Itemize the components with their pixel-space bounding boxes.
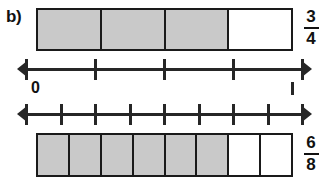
number-line-fourths	[26, 57, 303, 83]
bar-cell-2-shaded	[102, 10, 166, 49]
tick-mark-2	[94, 104, 97, 125]
fraction-label-three-fourths: 3 4	[300, 8, 322, 48]
bar-cell-1-shaded	[38, 10, 102, 49]
tick-mark-1	[60, 104, 63, 125]
tick-mark-3	[129, 104, 132, 125]
tick-mark-7	[267, 104, 270, 125]
worksheet-panel: b) 3 4 0 6 8	[0, 0, 322, 183]
bar-cell-2-shaded	[70, 135, 102, 175]
bar-cell-5-shaded	[166, 135, 198, 175]
number-line-eighths	[26, 102, 303, 128]
fraction-denominator: 8	[300, 156, 322, 174]
zero-label: 0	[31, 80, 40, 96]
bar-cell-8-unshaded	[261, 135, 291, 175]
fraction-label-six-eighths: 6 8	[300, 134, 322, 174]
tick-mark-3	[232, 59, 235, 80]
bar-cell-3-shaded	[102, 135, 134, 175]
tick-mark-2	[163, 59, 166, 80]
tick-mark-0	[25, 59, 28, 80]
tick-mark-8	[301, 104, 304, 125]
fraction-denominator: 4	[300, 30, 322, 48]
tick-mark-6	[232, 104, 235, 125]
bar-cell-4-unshaded	[229, 10, 291, 49]
tick-mark-4	[163, 104, 166, 125]
tick-mark-5	[198, 104, 201, 125]
fraction-bar-fourths	[36, 8, 293, 51]
bar-cell-7-unshaded	[229, 135, 261, 175]
bar-cell-3-shaded	[166, 10, 230, 49]
bar-cell-4-shaded	[134, 135, 166, 175]
bar-cell-6-shaded	[197, 135, 229, 175]
fraction-numerator: 3	[300, 8, 322, 26]
bar-cell-1-shaded	[38, 135, 70, 175]
end-mark-dash	[291, 82, 294, 95]
tick-mark-4	[301, 59, 304, 80]
tick-mark-1	[94, 59, 97, 80]
tick-mark-0	[25, 104, 28, 125]
panel-label: b)	[6, 8, 21, 25]
fraction-bar-eighths	[36, 133, 293, 177]
fraction-numerator: 6	[300, 134, 322, 152]
